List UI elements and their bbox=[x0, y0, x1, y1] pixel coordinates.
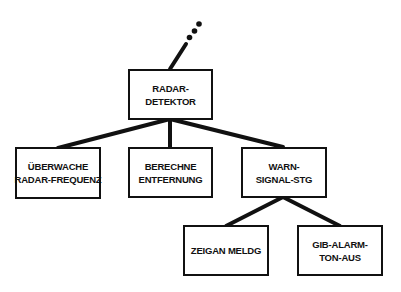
node-label-line: RADAR-FREQUENZ bbox=[15, 173, 102, 186]
continuation-dots-icon bbox=[187, 21, 202, 40]
node-ueberwache-radar-frequenz: ÜBERWACHE RADAR-FREQUENZ bbox=[15, 147, 101, 199]
node-label-line: SIGNAL-STG bbox=[256, 173, 313, 186]
node-berechne-entfernung: BERECHNE ENTFERNUNG bbox=[128, 147, 213, 198]
node-label-line: DETEKTOR bbox=[145, 95, 195, 108]
edge-parent-root bbox=[170, 44, 186, 69]
node-label-line: WARN- bbox=[268, 160, 299, 173]
node-label-line: BERECHNE bbox=[145, 160, 197, 173]
node-warn-signal-stg: WARN- SIGNAL-STG bbox=[241, 147, 327, 198]
node-label-line: GIB-ALARM- bbox=[312, 238, 368, 251]
node-gib-alarm-ton-aus: GIB-ALARM- TON-AUS bbox=[297, 225, 383, 276]
node-zeigan-meldg: ZEIGAN MELDG bbox=[183, 225, 269, 276]
edge-root-monitor bbox=[58, 119, 170, 148]
edge-warn-display bbox=[226, 197, 283, 226]
node-label-line: ZEIGAN MELDG bbox=[191, 244, 261, 257]
node-label-line: ÜBERWACHE bbox=[28, 160, 88, 173]
node-label-line: TON-AUS bbox=[319, 251, 361, 264]
edge-warn-alarm bbox=[283, 197, 340, 226]
node-radar-detektor: RADAR- DETEKTOR bbox=[128, 69, 213, 120]
node-label-line: RADAR- bbox=[152, 82, 188, 95]
node-label-line: ENTFERNUNG bbox=[139, 173, 203, 186]
structure-chart: RADAR- DETEKTOR ÜBERWACHE RADAR-FREQUENZ… bbox=[0, 0, 401, 292]
edge-root-warn bbox=[170, 119, 283, 147]
